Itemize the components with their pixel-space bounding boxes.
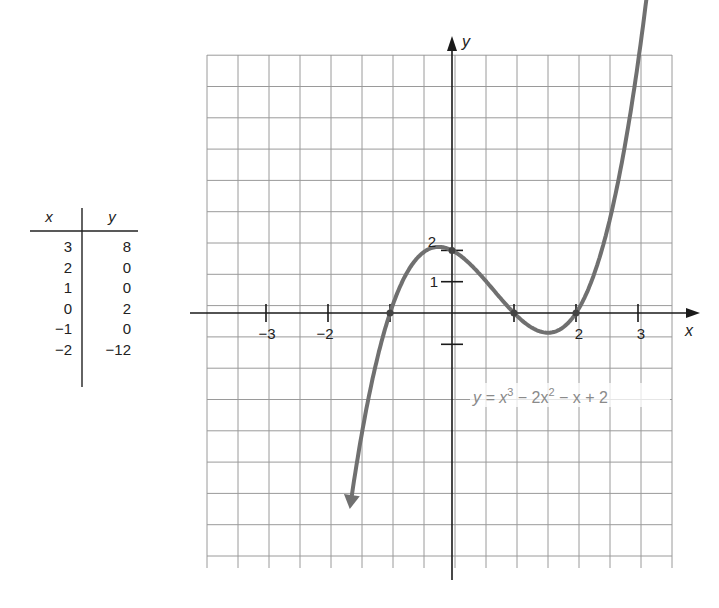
marked-point	[387, 310, 394, 317]
equation-label: y = x3 − 2x2 − x + 2	[472, 386, 608, 406]
x-tick-label-neg2: −2	[316, 325, 333, 342]
x-tick-label-neg3: −3	[258, 325, 275, 342]
table-cell-y: 0	[123, 259, 131, 276]
table-cell-x: 0	[64, 300, 72, 317]
table-cell-y: −12	[106, 341, 131, 358]
x-axis-arrow-icon	[686, 308, 700, 318]
x-tick-label-2: 2	[575, 325, 583, 342]
y-tick-label-1: 1	[430, 273, 438, 290]
x-axis-label: x	[684, 322, 694, 339]
x-tick-label-3: 3	[637, 325, 645, 342]
marked-point	[573, 310, 580, 317]
table-cell-x: 2	[64, 259, 72, 276]
table-cell-x: 3	[64, 238, 72, 255]
table-header-y: y	[107, 208, 117, 225]
table-cell-y: 2	[123, 300, 131, 317]
function-curve	[352, 0, 657, 497]
graph-canvas: −3 −2 2 3 2 1 y x y = x3 − 2x2 − x + 2 x…	[0, 0, 719, 608]
y-tick-label-2: 2	[428, 233, 436, 250]
y-axis-label: y	[461, 33, 471, 50]
value-table: x y 38201002−10−2−12	[30, 208, 138, 387]
marked-point	[449, 247, 456, 254]
marked-point	[511, 310, 518, 317]
grid	[207, 55, 672, 568]
table-cell-y: 0	[123, 320, 131, 337]
y-axis-arrow-icon	[447, 36, 457, 51]
table-header-x: x	[44, 208, 53, 225]
table-cell-y: 0	[123, 279, 131, 296]
curve-arrow-down-icon	[344, 494, 360, 509]
table-cell-y: 8	[123, 238, 131, 255]
table-cell-x: −1	[55, 320, 72, 337]
table-cell-x: 1	[64, 279, 72, 296]
table-cell-x: −2	[55, 341, 72, 358]
